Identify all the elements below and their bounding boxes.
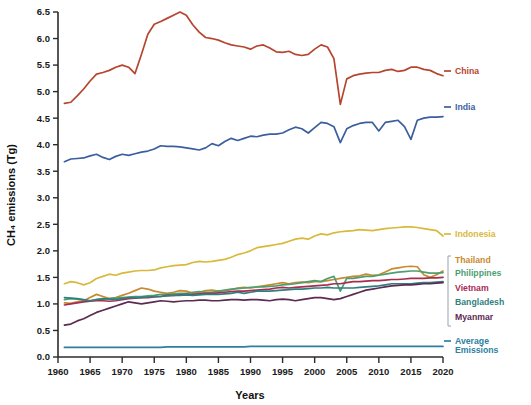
x-tick-label: 1960 bbox=[47, 366, 68, 377]
series-line-india bbox=[64, 117, 443, 162]
x-tick-label: 1980 bbox=[176, 366, 197, 377]
legend-label-philippines[interactable]: Philippines bbox=[455, 268, 502, 278]
x-tick-label: 2005 bbox=[336, 366, 358, 377]
y-tick-label: 0.5 bbox=[37, 325, 51, 336]
y-tick-label: 6.5 bbox=[37, 6, 51, 17]
y-tick-label: 2.0 bbox=[37, 245, 50, 256]
x-tick-label: 2000 bbox=[304, 366, 325, 377]
legend-label-indonesia[interactable]: Indonesia bbox=[455, 229, 496, 239]
x-tick-label: 1995 bbox=[272, 366, 294, 377]
y-tick-label: 2.5 bbox=[37, 219, 51, 230]
y-tick-label: 3.5 bbox=[37, 166, 51, 177]
legend-label-bangladesh[interactable]: Bangladesh bbox=[455, 297, 504, 307]
legend-label-china[interactable]: China bbox=[455, 66, 479, 76]
legend-label-india[interactable]: India bbox=[455, 102, 475, 112]
legend-label-thailand[interactable]: Thailand bbox=[455, 255, 491, 265]
x-tick-label: 2010 bbox=[368, 366, 389, 377]
x-tick-label: 1970 bbox=[112, 366, 133, 377]
series-line-china bbox=[64, 12, 443, 104]
ch4-emissions-line-chart: 0.00.51.01.52.02.53.03.54.04.55.05.56.06… bbox=[0, 0, 531, 405]
series-line-average-emissions bbox=[64, 346, 443, 347]
x-tick-label: 1975 bbox=[144, 366, 166, 377]
chart-svg: 0.00.51.01.52.02.53.03.54.04.55.05.56.06… bbox=[0, 0, 531, 405]
x-tick-label: 1990 bbox=[240, 366, 261, 377]
x-axis-ticks: 1960196519701975198019851990199520002005… bbox=[47, 357, 453, 377]
legend-label-vietnam[interactable]: Vietnam bbox=[455, 283, 489, 293]
series-lines bbox=[64, 12, 443, 347]
y-tick-label: 3.0 bbox=[37, 192, 50, 203]
x-tick-label: 1985 bbox=[208, 366, 230, 377]
series-line-myanmar bbox=[64, 283, 443, 325]
y-tick-label: 0.0 bbox=[37, 351, 50, 362]
y-tick-label: 5.5 bbox=[37, 59, 51, 70]
series-line-indonesia bbox=[64, 227, 443, 285]
legend-label-emissions[interactable]: Emissions bbox=[455, 345, 499, 355]
y-tick-label: 6.0 bbox=[37, 33, 50, 44]
y-tick-label: 1.5 bbox=[37, 272, 51, 283]
x-axis-title: Years bbox=[235, 389, 264, 401]
legend-bracket bbox=[448, 256, 451, 326]
x-tick-label: 2015 bbox=[400, 366, 422, 377]
y-tick-label: 4.5 bbox=[37, 113, 51, 124]
y-tick-label: 5.0 bbox=[37, 86, 50, 97]
y-tick-label: 1.0 bbox=[37, 298, 50, 309]
chart-legend: ChinaIndiaIndonesiaThailandPhilippinesVi… bbox=[444, 66, 504, 355]
x-tick-label: 1965 bbox=[80, 366, 102, 377]
y-axis-ticks: 0.00.51.01.52.02.53.03.54.04.55.05.56.06… bbox=[37, 6, 58, 362]
legend-label-myanmar[interactable]: Myanmar bbox=[455, 312, 494, 322]
y-tick-label: 4.0 bbox=[37, 139, 50, 150]
x-tick-label: 2020 bbox=[432, 366, 453, 377]
y-axis-title: CH₄ emissions (Tg) bbox=[5, 144, 17, 246]
